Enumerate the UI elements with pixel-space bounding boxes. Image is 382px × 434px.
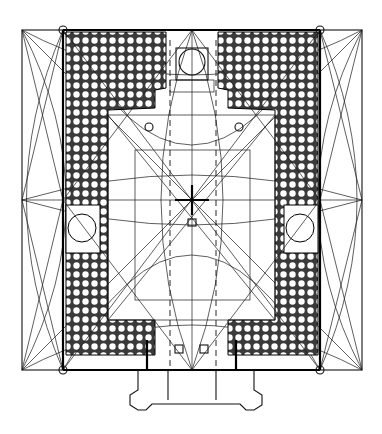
architectural-plan xyxy=(0,0,382,434)
side-dome-right xyxy=(286,214,314,242)
